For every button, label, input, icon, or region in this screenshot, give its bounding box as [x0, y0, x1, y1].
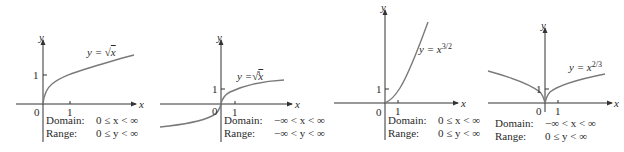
domain-value: 0 ≤ x < ∞ [96, 114, 138, 126]
equation-sqrt: y = √x [87, 46, 116, 58]
domain-label: Domain: [224, 114, 274, 127]
y-axis-label: y [39, 32, 44, 43]
y-axis-label: y [217, 32, 222, 43]
y-tick-label-1: 1 [536, 84, 542, 95]
x-axis-label: x [461, 98, 466, 109]
range-label: Range: [388, 127, 438, 140]
equation-x32: y = x3/2 [419, 43, 452, 55]
y-axis-label: y [381, 2, 386, 13]
eq-lhs: y = [87, 46, 105, 58]
origin-label: 0 [212, 106, 218, 117]
range-value: 0 ≤ y < ∞ [438, 127, 480, 139]
domain-label: Domain: [495, 117, 545, 130]
equation-x23: y = x2/3 [569, 61, 602, 73]
y-tick-label-1: 1 [212, 84, 218, 95]
y-axis-label: y [541, 20, 546, 31]
domain-value: −∞ < x < ∞ [545, 117, 596, 129]
domain-range-x23: Domain:−∞ < x < ∞ Range:0 ≤ y < ∞ [495, 117, 596, 143]
origin-label: 0 [376, 107, 382, 118]
curve-x23 [488, 71, 605, 103]
eq-lhs: y = [569, 61, 587, 73]
domain-range-cbrt: Domain:−∞ < x < ∞ Range:−∞ < y < ∞ [224, 114, 325, 140]
domain-label: Domain: [46, 114, 96, 127]
x-axis-label: x [139, 99, 144, 110]
origin-label: 0 [536, 106, 542, 117]
domain-value: −∞ < x < ∞ [274, 114, 325, 126]
eq-exponent: 2/3 [592, 60, 602, 69]
curve-sqrt [43, 55, 134, 104]
origin-label: 0 [34, 107, 40, 118]
domain-label: Domain: [388, 114, 438, 127]
range-value: 0 ≤ y < ∞ [545, 130, 587, 142]
equation-cbrt: y = 3√x [237, 70, 263, 82]
range-label: Range: [495, 130, 545, 143]
y-tick-label-1: 1 [376, 84, 382, 95]
eq-arg: x [111, 46, 116, 58]
curve-x32 [385, 22, 428, 103]
domain-range-x32: Domain:0 ≤ x < ∞ Range:0 ≤ y < ∞ [388, 114, 480, 140]
range-label: Range: [224, 127, 274, 140]
range-value: 0 ≤ y < ∞ [96, 127, 138, 139]
y-tick-label-1: 1 [33, 70, 39, 81]
radical-index: 3 [257, 69, 261, 77]
domain-value: 0 ≤ x < ∞ [438, 114, 480, 126]
x-axis-label: x [614, 98, 619, 109]
range-value: −∞ < y < ∞ [274, 127, 325, 139]
domain-range-sqrt: Domain:0 ≤ x < ∞ Range:0 ≤ y < ∞ [46, 114, 138, 140]
x-axis-label: x [295, 99, 300, 110]
range-label: Range: [46, 127, 96, 140]
x-tick-label-1: 1 [555, 106, 561, 117]
eq-lhs: y = [419, 43, 437, 55]
eq-exponent: 3/2 [442, 42, 452, 51]
